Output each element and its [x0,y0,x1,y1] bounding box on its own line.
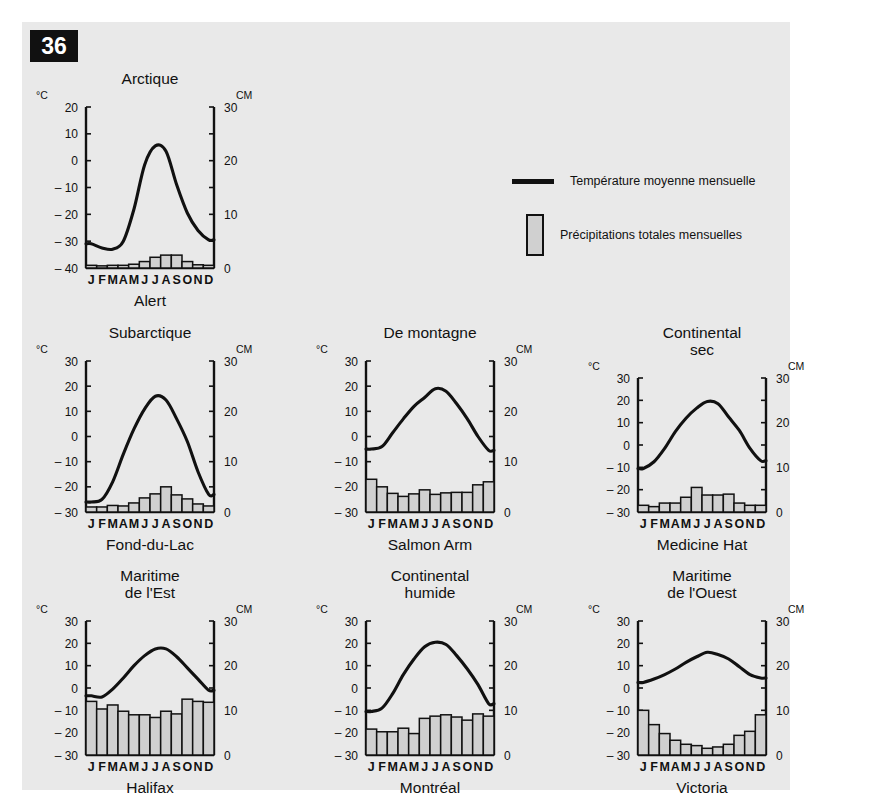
left-tick-label: 30 [345,615,359,629]
temperature-curve [86,648,214,697]
precipitation-bar [419,718,430,755]
precipitation-bar [161,255,172,268]
month-label: S [172,517,180,531]
city-label: Victoria [676,779,728,796]
left-tick-label: 30 [65,355,79,369]
month-label: D [484,760,493,774]
left-axis-unit: °C [588,603,600,615]
month-label: M [387,760,397,774]
left-tick-label: – 20 [55,726,79,740]
month-label: S [452,517,460,531]
month-label: A [441,517,450,531]
temperature-curve [638,652,766,682]
chart-title: Continental [663,324,741,341]
precipitation-bar [430,716,441,755]
right-axis-unit: CM [236,343,252,355]
right-tick-label: 10 [224,704,238,718]
precipitation-bar [713,495,724,512]
precipitation-bar [713,747,724,755]
right-tick-label: 0 [504,506,511,520]
right-tick-label: 30 [776,615,790,629]
precipitation-bar [638,505,649,512]
month-label: N [473,760,482,774]
precipitation-bar [734,735,745,755]
precipitation-bar [398,496,409,512]
month-label: M [129,273,139,287]
right-tick-label: 10 [224,455,238,469]
precipitation-bar [171,255,182,268]
month-label: S [172,760,180,774]
month-label: O [734,517,744,531]
precipitation-bar [723,744,734,755]
month-label: D [204,760,213,774]
month-label: M [107,517,117,531]
month-label: F [98,760,106,774]
right-tick-label: 20 [504,659,518,673]
precipitation-bar [649,725,660,755]
month-label: J [152,760,159,774]
month-label: D [484,517,493,531]
right-tick-label: 0 [224,749,231,763]
precipitation-bar [86,701,97,755]
month-label: J [432,517,439,531]
left-tick-label: 0 [71,154,78,168]
right-axis-unit: CM [236,89,252,101]
chart-title: Arctique [122,70,179,87]
month-label: J [640,517,647,531]
left-axis-unit: °C [316,603,328,615]
chart-title: Continental [391,567,469,584]
left-tick-label: – 30 [335,506,359,520]
left-tick-label: – 10 [607,704,631,718]
month-label: J [421,760,428,774]
right-tick-label: 30 [504,615,518,629]
precipitation-bar [366,729,377,755]
precipitation-bar [462,492,473,512]
left-tick-label: 20 [65,101,79,115]
month-label: A [119,760,128,774]
right-tick-label: 10 [504,704,518,718]
legend-label-precipitation: Précipitations totales mensuelles [560,228,742,242]
legend: Température moyenne mensuelle Précipitat… [512,174,812,282]
left-tick-label: – 20 [607,483,631,497]
left-tick-label: – 40 [55,262,79,276]
city-label: Alert [134,292,167,309]
precipitation-bar [171,714,182,755]
month-label: D [204,517,213,531]
precipitation-bar [681,744,692,755]
precipitation-bar [118,711,129,755]
month-label: J [368,760,375,774]
right-axis-unit: CM [516,343,532,355]
month-label: J [704,517,711,531]
left-tick-label: – 10 [335,455,359,469]
right-axis-unit: CM [788,360,804,372]
precipitation-bar [377,732,388,755]
city-label: Fond-du-Lac [106,536,194,553]
right-tick-label: 30 [224,101,238,115]
precipitation-bar [97,507,108,512]
right-tick-label: 10 [776,704,790,718]
left-tick-label: 0 [351,430,358,444]
precipitation-bar [129,264,140,268]
month-label: A [119,273,128,287]
right-tick-label: 30 [776,372,790,386]
month-label: A [161,273,170,287]
month-label: M [659,517,669,531]
left-tick-label: 20 [345,380,359,394]
chart-title: Maritime [672,567,731,584]
left-tick-label: 20 [617,637,631,651]
month-label: S [724,760,732,774]
month-label: F [378,517,386,531]
month-label: N [745,760,754,774]
precipitation-bar [150,494,161,512]
precipitation-bar [755,505,766,512]
precipitation-bar [182,499,193,512]
month-label: F [650,517,658,531]
month-label: N [193,760,202,774]
precipitation-bar [97,266,108,268]
left-tick-label: 30 [617,372,631,386]
precipitation-bar [150,717,161,755]
right-axis-unit: CM [236,603,252,615]
left-tick-label: 30 [617,615,631,629]
chart-title: de l'Ouest [667,584,737,601]
left-tick-label: – 30 [55,749,79,763]
